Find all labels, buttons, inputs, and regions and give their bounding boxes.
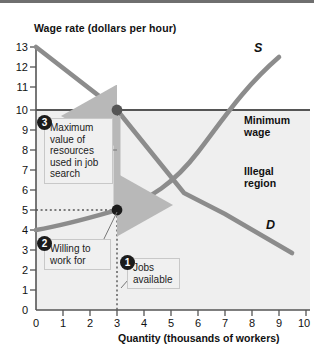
maximum-value-callout: Maximum value of resources used in job s… — [44, 118, 113, 184]
x-tick-label-5: 5 — [164, 317, 178, 329]
x-tick-label-9: 9 — [272, 317, 286, 329]
y-tick-label-4: 4 — [10, 224, 28, 236]
y-tick-label-7: 7 — [10, 164, 28, 176]
x-tick-label-8: 8 — [245, 317, 259, 329]
x-tick-label-4: 4 — [137, 317, 151, 329]
chart-figure: Wage rate (dollars per hour) — [0, 0, 314, 357]
annotation-badge-3: 3 — [37, 115, 52, 130]
x-tick-label-1: 1 — [56, 317, 70, 329]
y-tick-label-13: 13 — [10, 41, 28, 53]
annotation-badge-2: 2 — [37, 236, 52, 251]
x-tick-label-2: 2 — [83, 317, 97, 329]
supply-curve-label: S — [254, 41, 262, 55]
y-tick-label-10: 10 — [10, 104, 28, 116]
x-tick-label-10: 10 — [297, 317, 311, 329]
illegal-region-label: Illegal region — [244, 165, 304, 189]
x-tick-label-3: 3 — [110, 317, 124, 329]
y-tick-label-2: 2 — [10, 264, 28, 276]
minimum-wage-label: Minimum wage — [244, 114, 310, 138]
y-tick-label-11: 11 — [10, 81, 28, 93]
willing-to-work-callout: Willing to work for — [44, 239, 111, 270]
y-tick-marks — [30, 47, 36, 290]
y-tick-label-9: 9 — [10, 124, 28, 136]
x-tick-label-0: 0 — [29, 317, 43, 329]
y-tick-label-12: 12 — [10, 61, 28, 73]
y-tick-label-1: 1 — [10, 284, 28, 296]
x-tick-label-7: 7 — [218, 317, 232, 329]
x-tick-label-6: 6 — [191, 317, 205, 329]
y-tick-label-0: 0 — [10, 304, 28, 316]
jobs-available-point-marker — [112, 105, 123, 116]
demand-curve-label: D — [266, 218, 275, 232]
y-tick-label-6: 6 — [10, 184, 28, 196]
y-tick-label-8: 8 — [10, 144, 28, 156]
x-tick-marks — [63, 310, 306, 316]
willing-to-work-point-marker — [112, 205, 123, 216]
annotation-badge-1: 1 — [120, 255, 135, 270]
y-tick-label-5: 5 — [10, 204, 28, 216]
y-tick-label-3: 3 — [10, 244, 28, 256]
x-axis-title: Quantity (thousands of workers) — [118, 332, 280, 344]
